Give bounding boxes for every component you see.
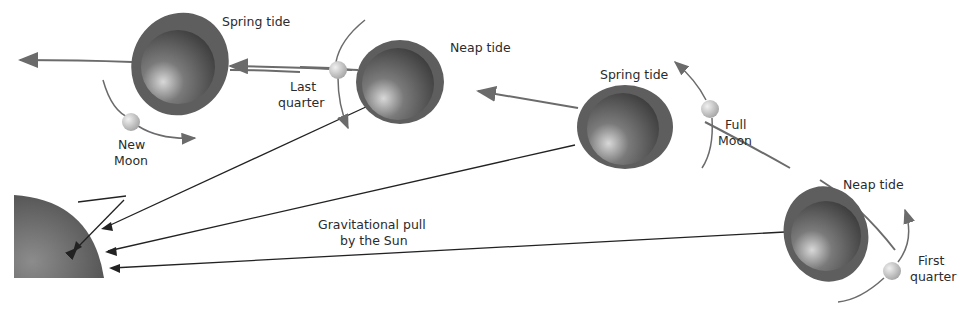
moon-label-full-line1: Full (725, 117, 746, 133)
moon-label-last-line1: Last (290, 79, 316, 95)
moon-label-first-line1: First (918, 253, 944, 269)
earth-neap-tide-last-quarter (329, 20, 444, 128)
pull-label-line2: by the Sun (340, 233, 408, 249)
moon-label-full-line2: Moon (718, 133, 752, 149)
gravitational-pull-arrows (76, 106, 785, 268)
tide-label-neap-2: Neap tide (843, 177, 904, 193)
tide-label-spring-1: Spring tide (222, 14, 290, 30)
new-moon (122, 113, 140, 131)
tide-label-neap-1: Neap tide (450, 40, 511, 56)
sun (14, 195, 104, 278)
moon-label-first-line2: quarter (910, 269, 956, 285)
moon-label-new-line1: New (118, 137, 145, 153)
moon-label-last-line2: quarter (278, 95, 324, 111)
last-quarter-moon (329, 61, 347, 79)
full-moon (701, 100, 719, 118)
tides-diagram: Spring tide New Moon Neap tide Last quar… (0, 0, 962, 315)
pull-label-line1: Gravitational pull (318, 217, 426, 233)
first-quarter-moon (883, 262, 901, 280)
tide-label-spring-2: Spring tide (600, 67, 668, 83)
earth-neap-tide-first-quarter (773, 177, 909, 302)
moon-label-new-line2: Moon (114, 153, 148, 169)
